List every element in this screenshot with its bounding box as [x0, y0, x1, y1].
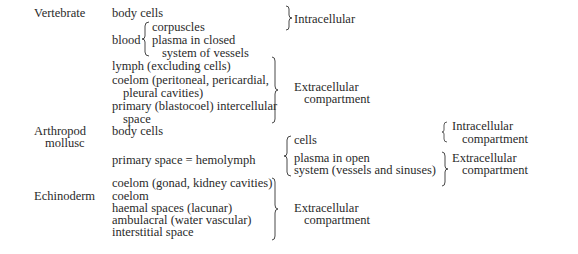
right-brace-icon	[285, 5, 293, 31]
right-brace-icon	[271, 56, 279, 124]
left-brace-icon	[442, 121, 448, 143]
list-item: interstitial space	[112, 226, 194, 239]
label-intracellular: Intracellular	[294, 13, 355, 26]
group-label-vertebrate: Vertebrate	[34, 7, 85, 20]
label-compartment: compartment	[304, 214, 370, 227]
item-primary-space: primary space = hemolymph	[112, 154, 255, 167]
item-body-cells: body cells	[112, 125, 163, 138]
right-brace-icon	[271, 177, 279, 241]
group-label-echinoderm: Echinoderm	[34, 190, 95, 203]
label-compartment: compartment	[462, 133, 528, 146]
item-blood: blood	[112, 34, 140, 47]
item-body-cells: body cells	[112, 7, 163, 20]
item-cells: cells	[294, 134, 317, 147]
label-compartment: compartment	[304, 93, 370, 106]
item-lymph: lymph (excluding cells)	[112, 60, 231, 73]
item-plasma-open-cont: system (vessels and sinuses)	[294, 164, 436, 177]
group-label-mollusc: mollusc	[45, 137, 85, 150]
left-brace-icon	[142, 21, 150, 57]
left-brace-icon	[284, 135, 292, 177]
right-brace-icon	[441, 151, 449, 187]
label-compartment: compartment	[462, 164, 528, 177]
